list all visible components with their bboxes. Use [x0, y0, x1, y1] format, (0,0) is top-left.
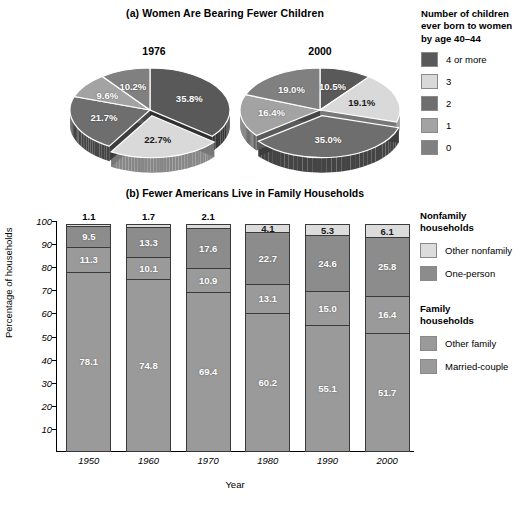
pie-slice-side — [247, 127, 248, 143]
legend-a-item: 1 — [421, 118, 531, 133]
pie-year-label-1976: 1976 — [124, 45, 184, 57]
pie-slice-side — [254, 134, 255, 150]
bar-segment[interactable]: 78.1 — [66, 272, 111, 452]
bar-segment[interactable]: 17.6 — [186, 228, 231, 269]
bar-segment[interactable]: 22.7 — [245, 232, 290, 284]
bar-segment-value: 10.1 — [139, 263, 158, 274]
pie-slice-side — [255, 135, 256, 151]
bar-segment[interactable]: 13.1 — [245, 284, 290, 314]
bar-segment-value: 13.1 — [259, 293, 278, 304]
bar-segment[interactable]: 6.1 — [365, 224, 410, 238]
bar-segment[interactable]: 9.5 — [66, 226, 111, 248]
pie-slice-side — [76, 126, 77, 142]
stacked-bar[interactable]: 5.324.615.055.1 — [305, 224, 350, 451]
bar-segment-value: 11.3 — [80, 254, 98, 265]
bar-segment[interactable]: 10.9 — [186, 268, 231, 293]
pie-slice-side — [379, 143, 382, 160]
panel-a-title: (a) Women Are Bearing Fewer Children — [60, 7, 390, 19]
bar-segment-value: 55.1 — [318, 383, 337, 394]
stacked-bar[interactable]: 4.122.713.160.2 — [245, 224, 290, 451]
x-axis-title: Year — [56, 479, 414, 490]
x-axis-tick-label: 1970 — [186, 455, 231, 466]
y-axis-tick-label: 90 — [41, 239, 52, 250]
bar-segment-value: 10.9 — [199, 275, 218, 286]
pie-slice-side — [317, 158, 322, 173]
legend-b-group2-line2: households — [420, 315, 532, 327]
pie-slice-side — [83, 133, 85, 149]
legend-b-item: Married-couple — [420, 359, 532, 374]
pie-slice-side — [79, 129, 80, 145]
pie-slice-side — [280, 151, 284, 167]
pie-slice-value-label: 10.5% — [319, 81, 346, 92]
legend-b-item: Other nonfamily — [420, 243, 532, 258]
legend-item-label: Married-couple — [445, 361, 508, 372]
pie-slice-side — [341, 156, 346, 172]
legend-b-item: Other family — [420, 336, 532, 351]
pie-slice-side — [74, 123, 75, 140]
bar-chart-plot-area: 102030405060708090100 1.19.511.378.11.71… — [56, 221, 414, 452]
y-axis-tick-mark — [52, 406, 57, 407]
pie-slice-side — [303, 156, 308, 172]
pie-chart-2000: 10.5%19.1%35.0%16.4%19.0% — [228, 58, 413, 173]
bar-segment-value: 5.3 — [321, 225, 334, 236]
legend-swatch-icon — [421, 96, 438, 111]
legend-swatch-icon — [421, 74, 438, 89]
y-axis-tick-mark — [52, 429, 57, 430]
legend-item-label: 4 or more — [446, 54, 487, 65]
y-axis-tick-label: 70 — [41, 285, 52, 296]
pie-slice-value-label: 35.8% — [176, 93, 203, 104]
bar-segment-value: 24.6 — [318, 258, 337, 269]
stacked-bar[interactable]: 1.19.511.378.1 — [66, 224, 111, 451]
y-axis-tick-mark — [52, 244, 57, 245]
pie-year-label-2000: 2000 — [290, 45, 350, 57]
legend-household-types: Nonfamily households Other nonfamilyOne-… — [420, 210, 532, 374]
pie-slice-side — [332, 157, 337, 172]
bar-segment[interactable]: 51.7 — [365, 333, 410, 452]
pie-slice-side — [359, 152, 363, 168]
pie-slice-side — [80, 130, 82, 146]
pie-slice-side — [93, 139, 95, 155]
bar-segment[interactable]: 24.6 — [305, 235, 350, 292]
bar-segment[interactable]: 55.1 — [305, 325, 350, 452]
pie-slice-side — [73, 122, 74, 139]
pie-slice-side — [166, 157, 169, 172]
x-axis-tick-label: 1950 — [66, 455, 111, 466]
pie-slice-side — [351, 154, 356, 170]
pie-slice-value-label: 10.2% — [119, 81, 146, 92]
pie-slice-side — [322, 158, 327, 173]
legend-swatch-icon — [421, 52, 438, 67]
bar-segment[interactable]: 13.3 — [126, 227, 171, 258]
pie-slice-side — [129, 156, 132, 171]
pie-slice-side — [289, 154, 294, 170]
y-axis-tick-mark — [52, 221, 57, 222]
bar-segment[interactable]: 60.2 — [245, 313, 290, 452]
x-axis-tick-label: 1960 — [126, 455, 171, 466]
pie-slice-side — [138, 157, 141, 172]
bar-segment[interactable]: 15.0 — [305, 291, 350, 326]
stacked-bar[interactable]: 2.117.610.969.4 — [186, 224, 231, 451]
bar-segment[interactable]: 16.4 — [365, 296, 410, 334]
pie-slice-side — [147, 158, 150, 173]
legend-a-title-line2: ever born to women — [421, 20, 531, 32]
pie-slice-side — [284, 153, 288, 169]
bar-segment[interactable]: 25.8 — [365, 237, 410, 297]
stacked-bar[interactable]: 1.713.310.174.8 — [126, 224, 171, 451]
legend-a-item: 4 or more — [421, 52, 531, 67]
y-axis-tick-mark — [52, 290, 57, 291]
pie-slice-side — [132, 156, 135, 171]
pie-slice-side — [91, 138, 93, 154]
pie-slice-side — [249, 129, 250, 145]
pie-slice-side — [312, 157, 317, 172]
y-axis-tick-label: 10 — [41, 423, 52, 434]
legend-item-label: 0 — [446, 142, 451, 153]
y-axis-tick-label: 20 — [41, 400, 52, 411]
y-axis-tick-mark — [52, 267, 57, 268]
legend-swatch-icon — [420, 359, 437, 374]
bar-segment[interactable]: 69.4 — [186, 292, 231, 452]
x-axis-tick-label: 2000 — [365, 455, 410, 466]
bar-segment[interactable]: 10.1 — [126, 257, 171, 280]
stacked-bar[interactable]: 6.125.816.451.7 — [365, 224, 410, 451]
bar-segment[interactable]: 74.8 — [126, 279, 171, 452]
bar-segment-value: 16.4 — [378, 309, 397, 320]
bar-segment[interactable]: 11.3 — [66, 247, 111, 273]
